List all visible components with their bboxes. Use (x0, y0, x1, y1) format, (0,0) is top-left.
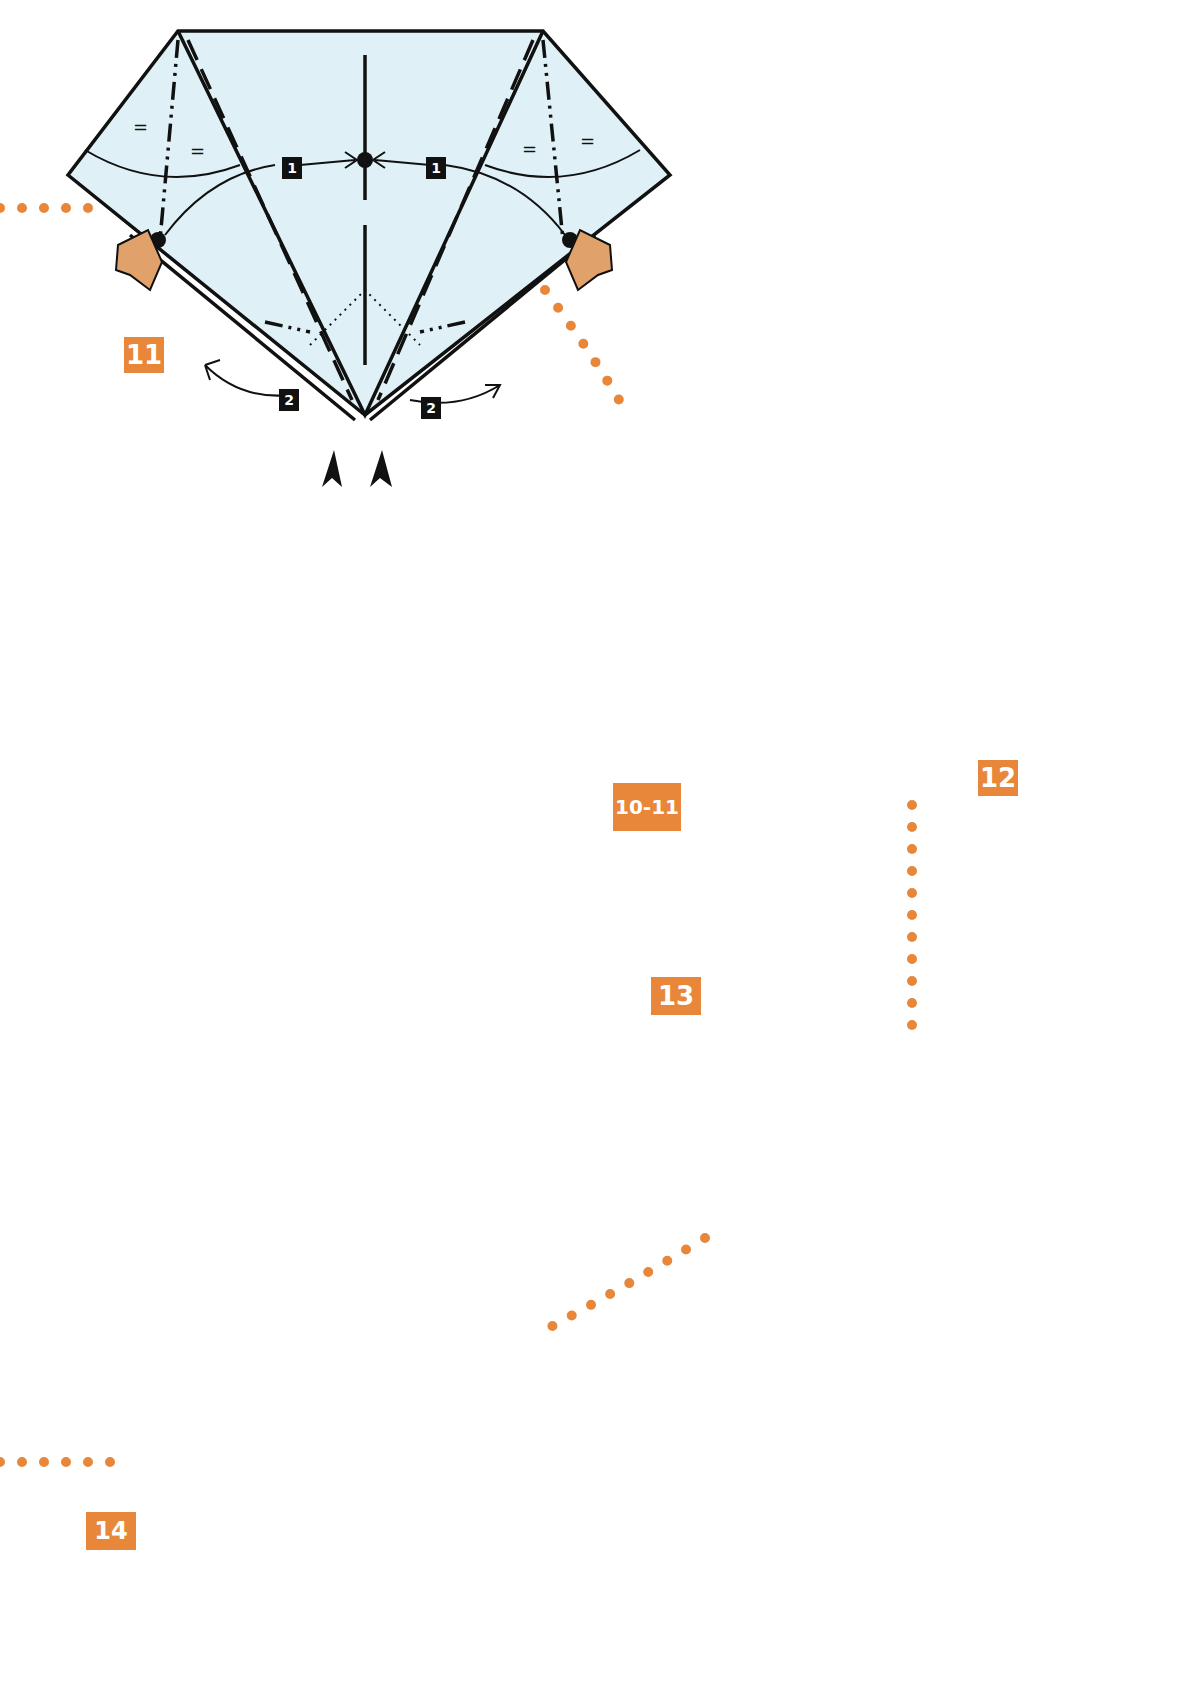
step-13-badge: 13 (651, 977, 701, 1015)
step-11-badge: 11 (124, 337, 164, 373)
sequence-mark-1-left: 1 (282, 157, 302, 179)
step-14-badge: 14 (86, 1512, 136, 1550)
sequence-mark-2-right: 2 (421, 397, 441, 419)
reference-badge: 10-11 (613, 783, 681, 831)
equal-mark: = (580, 130, 595, 151)
connector-dots-13-14 (545, 1238, 705, 1330)
step-12-badge: 12 (978, 760, 1018, 796)
equal-mark: = (190, 140, 205, 161)
equal-mark: = (133, 116, 148, 137)
connector-dots-11-12 (545, 290, 625, 410)
origami-diagram (0, 0, 1203, 1706)
equal-mark: = (522, 138, 537, 159)
step-11-diagram (68, 31, 670, 487)
sequence-mark-2-left: 2 (279, 389, 299, 411)
sequence-mark-1-right: 1 (426, 157, 446, 179)
